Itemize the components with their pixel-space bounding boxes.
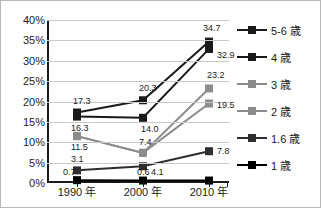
x-tick-label: 2010 年 [190,186,229,198]
legend-marker-icon [248,53,256,61]
legend-item-label: 1 歳 [271,157,291,173]
legend-swatch-icon [237,132,267,144]
legend-swatch-icon [237,78,267,90]
data-point-label: 19.5 [217,101,235,110]
data-point-label: 7.4 [139,138,152,147]
chart-figure: 0%5%10%15%20%25%30%35%40% 17.320.334.716… [0,0,321,208]
y-axis-tick-labels: 0%5%10%15%20%25%30%35%40% [1,20,45,183]
data-point-label: 14.0 [141,125,159,134]
gridline [47,40,229,41]
y-tick-label: 40% [3,15,45,26]
legend-marker-icon [248,161,256,169]
data-point-label: 3.1 [71,155,84,164]
legend-item-label: 5-6 歳 [271,22,301,38]
data-point-label: 4.1 [151,168,164,177]
legend-swatch-icon [237,24,267,36]
data-point-label: 7.8 [217,147,230,156]
legend-marker-icon [248,134,256,142]
gridline [47,20,229,21]
y-tick-label: 35% [3,35,45,46]
legend-item-label: 4 歳 [271,49,291,65]
legend-swatch-icon [237,51,267,63]
x-axis-tick-labels: 1990 年2000 年2010 年 [47,186,229,204]
series-marker [205,84,213,92]
y-tick-label: 15% [3,117,45,128]
data-point-label: 32.9 [217,51,235,60]
y-tick-label: 5% [3,158,45,169]
chart-legend: 5-6 歳4 歳3 歳2 歳1.6 歳1 歳 [237,23,319,183]
y-tick-label: 20% [3,97,45,108]
legend-swatch-icon [237,105,267,117]
legend-item[interactable]: 5-6 歳 [237,23,301,37]
data-point-label: 17.3 [73,97,91,106]
x-tick-label: 2000 年 [124,186,163,198]
series-marker [73,132,81,140]
y-tick-label: 30% [3,56,45,67]
data-point-label: 20.3 [139,84,157,93]
data-point-label: 0.6 [137,168,150,177]
series-marker [139,96,147,104]
data-point-label: 16.3 [71,124,89,133]
plot-area: 17.320.334.716.314.032.911.57.423.219.53… [47,20,229,183]
y-tick-label: 0% [3,178,45,189]
legend-item-label: 2 歳 [271,103,291,119]
legend-item-label: 3 歳 [271,76,291,92]
series-marker [205,45,213,53]
legend-item[interactable]: 2 歳 [237,104,291,118]
legend-item[interactable]: 3 歳 [237,77,291,91]
legend-item[interactable]: 1 歳 [237,158,291,172]
y-tick-label: 25% [3,76,45,87]
legend-item[interactable]: 1.6 歳 [237,131,300,145]
y-tick-label: 10% [3,137,45,148]
legend-marker-icon [248,26,256,34]
legend-marker-icon [248,107,256,115]
legend-item-label: 1.6 歳 [271,130,300,146]
data-point-label: 0.7 [63,168,76,177]
series-marker [73,113,81,121]
series-marker [139,114,147,122]
data-point-label: 23.2 [207,71,225,80]
legend-item[interactable]: 4 歳 [237,50,291,64]
gridline [47,81,229,82]
data-point-label: 11.5 [71,143,88,152]
series-marker [205,147,213,155]
gridline [47,61,229,62]
x-tick-label: 1990 年 [58,186,97,198]
legend-marker-icon [248,80,256,88]
series-marker [139,149,147,157]
legend-swatch-icon [237,159,267,171]
series-marker [205,38,213,46]
data-point-label: 34.7 [203,24,221,33]
